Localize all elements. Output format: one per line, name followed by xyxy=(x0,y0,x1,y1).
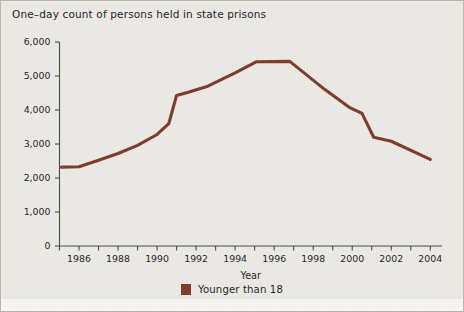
chart-figure: One–day count of persons held in state p… xyxy=(0,0,464,312)
legend-label-younger-than-18: Younger than 18 xyxy=(198,284,283,295)
page-bottom-margin xyxy=(1,299,463,311)
y-tick-label: 4,000 xyxy=(24,104,51,115)
x-tick-label: 1988 xyxy=(106,253,130,264)
y-axis: 01,0002,0003,0004,0005,0006,000 xyxy=(24,36,60,251)
x-tick-label: 1994 xyxy=(223,253,247,264)
x-tick-label: 1992 xyxy=(184,253,208,264)
x-tick-label: 2000 xyxy=(340,253,364,264)
y-tick-label: 1,000 xyxy=(24,206,51,217)
x-tick-label: 1996 xyxy=(262,253,286,264)
x-tick-label: 1990 xyxy=(145,253,169,264)
y-tick-label: 2,000 xyxy=(24,172,51,183)
series-line-younger-than-18 xyxy=(61,61,430,167)
data-series-group xyxy=(61,61,430,167)
chart-title: One–day count of persons held in state p… xyxy=(12,8,266,20)
x-axis-title-group: Year xyxy=(240,270,261,281)
y-tick-label: 6,000 xyxy=(24,36,51,47)
line-chart-plot: 01,0002,0003,0004,0005,0006,000 19861988… xyxy=(1,1,464,312)
chart-legend: Younger than 18 xyxy=(1,284,463,295)
legend-swatch-younger-than-18 xyxy=(181,284,191,295)
x-tick-label: 2002 xyxy=(379,253,403,264)
y-tick-label: 3,000 xyxy=(24,138,51,149)
y-tick-label: 0 xyxy=(45,240,51,251)
x-tick-label: 1998 xyxy=(301,253,325,264)
x-axis: 1986198819901992199419961998200020022004 xyxy=(60,246,443,264)
x-tick-label: 2004 xyxy=(418,253,442,264)
x-axis-title: Year xyxy=(240,270,261,281)
y-tick-label: 5,000 xyxy=(24,70,51,81)
x-tick-label: 1986 xyxy=(67,253,91,264)
